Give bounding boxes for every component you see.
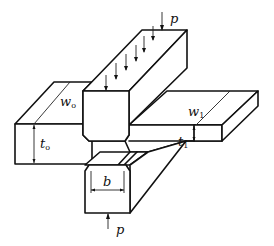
load-arrow-bottom [106,213,110,229]
load-label-bottom: p [116,222,125,237]
bottom-die [85,141,186,229]
load-arrow-top [160,12,164,31]
load-label-top: p [170,11,179,26]
die-compression-diagram: p p wo w1 to t1 b [0,0,274,246]
die-breadth-label: b [103,174,111,189]
